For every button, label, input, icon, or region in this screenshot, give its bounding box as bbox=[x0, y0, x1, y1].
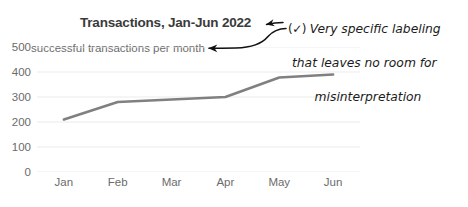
arrow-to-subtitle bbox=[209, 29, 286, 49]
annotation-line-1: (✓) Very specific labeling bbox=[286, 21, 468, 38]
x-axis-tick-label: Jun bbox=[324, 176, 343, 188]
y-axis-tick-label: 500 bbox=[0, 41, 31, 53]
chart-figure: Transactions, Jan-Jun 2022 successful tr… bbox=[0, 0, 468, 207]
y-axis-tick-label: 200 bbox=[0, 116, 31, 128]
x-axis-tick-label: Apr bbox=[216, 176, 234, 188]
y-axis-tick-label: 300 bbox=[0, 91, 31, 103]
x-axis-tick-label: Mar bbox=[162, 176, 182, 188]
x-axis-tick-label: May bbox=[268, 176, 290, 188]
annotation-line-2: that leaves no room for bbox=[286, 55, 468, 72]
arrow-to-title bbox=[267, 23, 284, 25]
y-axis-tick-label: 0 bbox=[0, 166, 31, 178]
y-axis-tick-label: 100 bbox=[0, 141, 31, 153]
x-axis-tick-label: Feb bbox=[108, 176, 128, 188]
x-axis-tick-label: Jan bbox=[55, 176, 74, 188]
x-axis-tick-labels: Jan Feb Mar Apr May Jun bbox=[37, 176, 360, 196]
annotation-line-3: misinterpretation bbox=[286, 89, 468, 106]
y-axis-tick-label: 400 bbox=[0, 66, 31, 78]
chart-title: Transactions, Jan-Jun 2022 bbox=[80, 15, 251, 30]
check-mark-icon: (✓) bbox=[288, 22, 306, 36]
y-axis-tick-labels: 500 400 300 200 100 0 bbox=[0, 47, 31, 172]
annotation-text-1: Very specific labeling bbox=[310, 22, 441, 36]
handwritten-annotation: (✓) Very specific labeling that leaves n… bbox=[286, 4, 468, 123]
